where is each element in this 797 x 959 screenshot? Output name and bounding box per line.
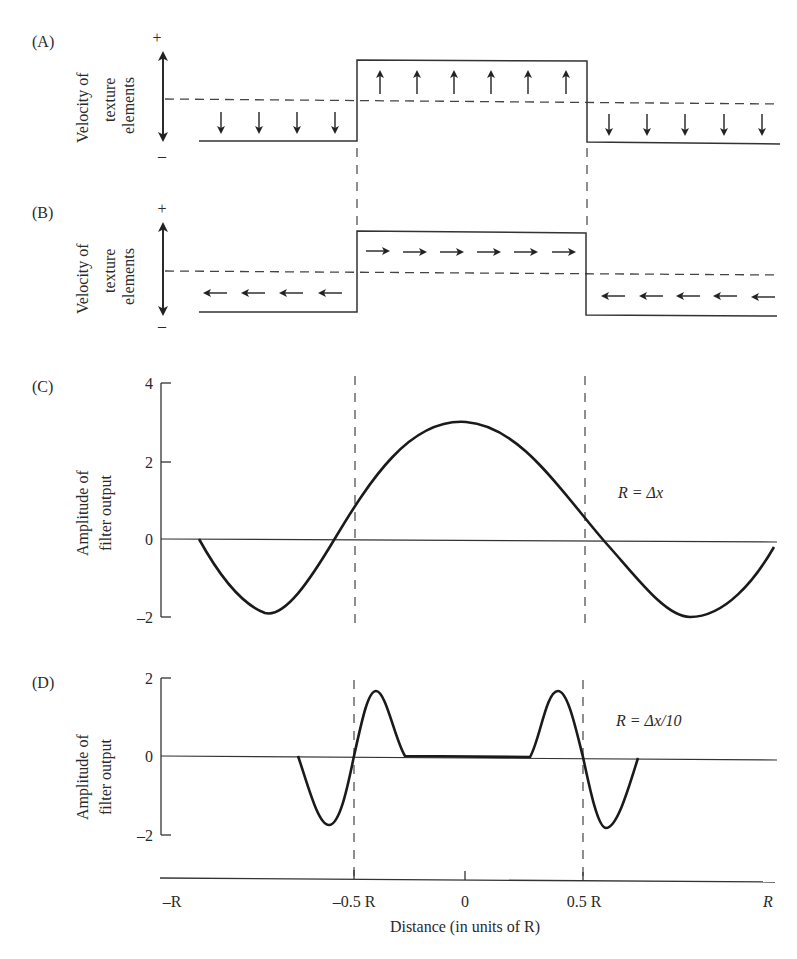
svg-text:Amplitude of: Amplitude of xyxy=(74,734,92,820)
annotation-r-eq-dx: R = Δx xyxy=(617,484,663,501)
panel-c-ylabel: Amplitude of xyxy=(74,470,92,556)
panel-b: (B) Velocity of texture elements + – xyxy=(32,200,780,334)
zero-dashed-line xyxy=(165,271,780,275)
annotation-r-eq-dx-10: R = Δx/10 xyxy=(615,712,682,729)
filter-output-curve xyxy=(199,422,774,617)
plus-sign: + xyxy=(152,29,161,46)
panel-d: (D) Amplitude of filter output 2 0 –2 R … xyxy=(32,670,777,844)
down-arrows-left xyxy=(221,112,335,132)
svg-text:filter output: filter output xyxy=(97,738,115,815)
panel-d-ylabel: Amplitude of xyxy=(74,734,92,820)
svg-text:Velocity of: Velocity of xyxy=(74,72,92,143)
ytick-neg2: –2 xyxy=(136,827,153,844)
ytick-4: 4 xyxy=(145,375,153,392)
down-arrows-right xyxy=(609,114,762,134)
ytick-neg2: –2 xyxy=(136,609,153,626)
panel-c: (C) Amplitude of filter output 4 2 0 –2 … xyxy=(32,375,777,626)
zero-line xyxy=(161,539,777,542)
left-arrows-right xyxy=(603,296,775,297)
right-arrows-center xyxy=(366,251,574,252)
x-axis: –R –0.5 R 0 0.5 R R Distance (in units o… xyxy=(160,870,775,936)
panel-b-label: (B) xyxy=(32,204,53,222)
minus-sign: – xyxy=(157,317,167,334)
xtick-neg-r: –R xyxy=(162,893,182,910)
ytick-2: 2 xyxy=(145,454,153,471)
panel-a-ylabel: Velocity of xyxy=(74,72,92,143)
figure: (A) Velocity of texture elements + – xyxy=(0,0,797,959)
velocity-profile xyxy=(199,60,780,144)
ytick-0: 0 xyxy=(145,531,153,548)
panel-a-label: (A) xyxy=(32,33,54,51)
panel-d-label: (D) xyxy=(32,674,54,692)
svg-text:elements: elements xyxy=(120,248,137,305)
x-axis-label: Distance (in units of R) xyxy=(390,918,540,936)
xtick-zero: 0 xyxy=(461,893,469,910)
minus-sign: – xyxy=(157,147,167,164)
ytick-0: 0 xyxy=(145,748,153,765)
boundary-dashed-lines xyxy=(354,148,587,880)
plus-sign: + xyxy=(157,200,166,217)
panel-c-label: (C) xyxy=(32,378,53,396)
svg-text:elements: elements xyxy=(120,77,137,134)
xtick-r: R xyxy=(762,893,773,910)
svg-text:Amplitude of: Amplitude of xyxy=(74,470,92,556)
filter-output-curve xyxy=(298,691,638,828)
zero-dashed-line xyxy=(165,99,780,104)
svg-text:filter output: filter output xyxy=(97,474,115,551)
xtick-half-r: 0.5 R xyxy=(567,893,602,910)
xtick-neg-half-r: –0.5 R xyxy=(332,893,376,910)
svg-text:Velocity of: Velocity of xyxy=(74,243,92,314)
panel-b-ylabel: Velocity of xyxy=(74,243,92,314)
svg-text:texture: texture xyxy=(101,78,118,122)
up-arrows-center xyxy=(380,72,566,94)
ytick-2: 2 xyxy=(145,670,153,687)
svg-text:texture: texture xyxy=(101,249,118,293)
panel-a: (A) Velocity of texture elements + – xyxy=(32,29,780,164)
